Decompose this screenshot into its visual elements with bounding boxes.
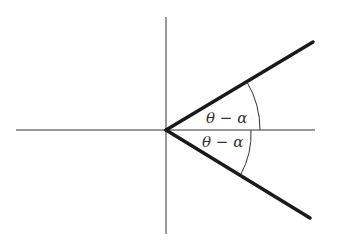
lower-angle-label: θ − α	[202, 135, 243, 150]
diagram-canvas	[0, 0, 345, 246]
upper-angle-label: θ − α	[206, 111, 247, 126]
upper-angle-arc	[247, 82, 260, 130]
